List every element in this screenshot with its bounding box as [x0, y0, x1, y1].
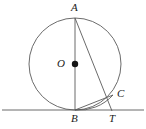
geometry-canvas	[0, 0, 146, 129]
segment-at	[75, 18, 112, 111]
label-c: C	[117, 88, 124, 99]
label-a: A	[71, 2, 78, 13]
center-dot	[72, 61, 78, 67]
geometry-figure: A O C B T	[0, 0, 146, 129]
label-b: B	[71, 113, 78, 124]
label-o: O	[57, 58, 65, 69]
label-t: T	[109, 113, 115, 124]
